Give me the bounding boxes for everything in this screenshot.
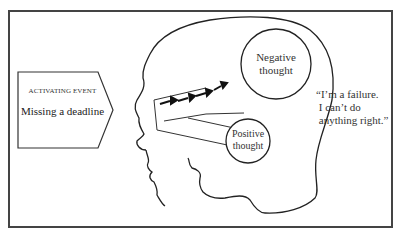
positive-thought-label: Positive thought [226,128,270,152]
funnel-split-line [188,118,234,128]
thought-quote: “I’m a failure. I can’t do anything righ… [316,88,400,127]
arrows [160,82,227,104]
face-profile [146,150,165,206]
activating-event-text: Missing a deadline [20,105,105,118]
negative-thought-label: Negative thought [248,51,304,77]
activating-event-label: ACTIVATING EVENT [20,87,105,95]
